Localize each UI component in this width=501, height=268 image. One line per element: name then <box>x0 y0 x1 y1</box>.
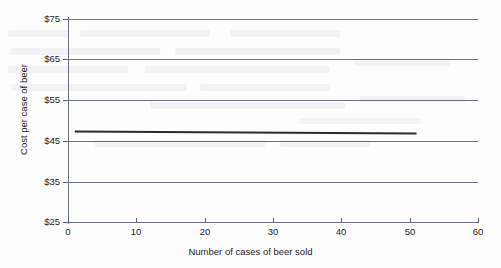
plot-area <box>68 19 478 222</box>
x-axis-title: Number of cases of beer sold <box>0 246 501 257</box>
y-axis-line <box>68 17 69 224</box>
x-axis-tick <box>136 218 137 223</box>
x-tick-label: 60 <box>458 226 498 237</box>
x-tick-label: 50 <box>390 226 430 237</box>
series-line-cost-per-case <box>68 19 478 222</box>
x-tick-label: 0 <box>48 226 88 237</box>
x-axis-tick <box>68 218 69 223</box>
x-tick-label: 20 <box>185 226 225 237</box>
x-axis-tick <box>273 218 274 223</box>
x-axis-tick <box>478 218 479 223</box>
x-tick-label: 40 <box>321 226 361 237</box>
x-axis-tick <box>341 218 342 223</box>
y-axis-title: Cost per case of beer <box>18 40 29 180</box>
x-axis-tick <box>205 218 206 223</box>
x-tick-label: 30 <box>253 226 293 237</box>
series-polyline <box>75 131 417 133</box>
y-tick-label: $75 <box>22 14 60 24</box>
chart-screenshot: $75 $65 $55 $45 $35 $25 0 10 20 30 40 50… <box>0 0 501 268</box>
x-tick-label: 10 <box>116 226 156 237</box>
x-axis-tick <box>410 218 411 223</box>
